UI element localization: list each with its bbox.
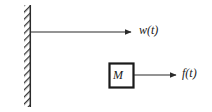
mass-label: M — [113, 69, 123, 81]
diagram-canvas: M w(t) f(t) — [0, 0, 212, 112]
force-label: f(t) — [182, 67, 197, 79]
displacement-label: w(t) — [139, 24, 158, 36]
diagram-svg — [0, 0, 212, 112]
fixed-support-wall — [24, 5, 31, 107]
